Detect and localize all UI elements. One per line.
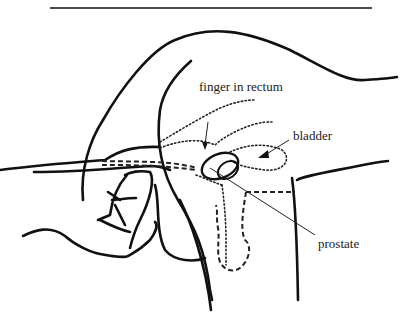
bladder-arrowhead [258,150,269,158]
label-bladder: bladder [293,129,332,142]
leg-front-outline [292,178,298,300]
label-finger-in-rectum: finger in rectum [199,80,283,93]
curled-fingers [98,175,136,232]
gluteal-crease [159,61,212,300]
label-prostate: prostate [318,237,359,250]
hand-outline [125,171,152,248]
penis-outline [216,192,249,270]
diagram-canvas: finger in rectum bladder prostate [0,0,418,336]
leg-back-outline [180,200,211,310]
finger-arrowhead [202,142,208,150]
urethra-dotted [222,185,226,265]
abdomen-outline [297,161,388,180]
diagram-svg [0,0,418,336]
buttock-outline [103,31,397,120]
rectum-lower-outline [160,122,272,148]
rectum-outline [160,100,255,142]
